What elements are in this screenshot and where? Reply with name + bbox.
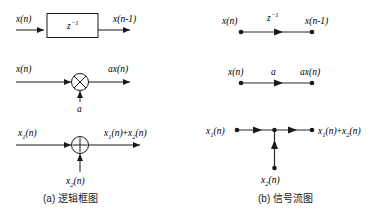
adder-input2-n: n bbox=[77, 176, 82, 186]
sfg-src2-n: n bbox=[272, 175, 277, 185]
multiplier-output-arrowhead bbox=[123, 79, 130, 85]
sfg-gain-branch-arrowhead bbox=[274, 80, 283, 87]
sfg-sink-x2-arg: (n) bbox=[349, 126, 360, 137]
sfg-sink-n1: n bbox=[329, 126, 334, 136]
panel-a-multiplier-row: a x(n) ax(n) bbox=[15, 64, 130, 114]
panel-a-delay-row: z−1 x(n) x(n-1) bbox=[15, 14, 136, 38]
sfg-gain-sink-node bbox=[310, 81, 315, 86]
sfg-delay-branch-arrowhead bbox=[274, 29, 283, 36]
panel-a-adder-row: x1(n) x1(n)+x2(n) x2(n) bbox=[16, 128, 147, 188]
adder-output-arrowhead bbox=[133, 142, 140, 148]
sfg-src2-arg: (n) bbox=[269, 175, 280, 186]
adder-input2-arg: (n) bbox=[74, 176, 85, 187]
delay-symbol-exponent: −1 bbox=[71, 19, 79, 26]
multiplier-input-label: x(n) bbox=[15, 64, 31, 75]
sfg-adder-source1-node bbox=[235, 128, 240, 133]
sfg-delay-gain-exponent: −1 bbox=[271, 11, 279, 18]
sfg-adder-source1-label: x1(n) bbox=[205, 126, 225, 138]
adder-input1-n: n bbox=[29, 128, 34, 138]
sfg-src1-arg: (n) bbox=[214, 126, 225, 137]
figure-container: z−1 x(n) x(n-1) a x(n) ax(n) bbox=[0, 0, 376, 210]
caption-b: (b) 信号流图 bbox=[258, 192, 313, 204]
sfg-adder-summing-node bbox=[272, 128, 277, 133]
sfg-gain-source-node bbox=[239, 81, 244, 86]
adder-input2-label: x2(n) bbox=[65, 176, 85, 188]
sfg-adder-arrowhead-up bbox=[271, 140, 278, 149]
adder-output-x2-arg: (n) bbox=[135, 128, 146, 139]
adder-input1-arg: (n) bbox=[26, 128, 37, 139]
sfg-adder-arrowhead-left bbox=[253, 127, 262, 134]
sfg-adder-sink-node bbox=[310, 128, 315, 133]
delay-input-label: x(n) bbox=[15, 14, 31, 25]
panel-b-delay-row: x(n) z−1 x(n-1) bbox=[221, 11, 328, 36]
sfg-sink-x1-arg: (n) bbox=[326, 126, 337, 137]
sfg-delay-gain-label: z−1 bbox=[266, 11, 278, 23]
multiplier-input-arrowhead bbox=[64, 79, 71, 85]
delay-input-arrowhead bbox=[37, 27, 44, 33]
delay-output-label: x(n-1) bbox=[112, 14, 136, 25]
sfg-sink-n2: n bbox=[353, 126, 358, 136]
delay-output-arrowhead bbox=[123, 27, 130, 33]
adder-output-n1: n bbox=[115, 128, 120, 138]
sfg-delay-sink-label: x(n-1) bbox=[304, 16, 328, 27]
sfg-gain-label: a bbox=[271, 67, 276, 77]
adder-output-n2: n bbox=[139, 128, 144, 138]
adder-output-x1-arg: (n) bbox=[112, 128, 123, 139]
adder-input1-label: x1(n) bbox=[17, 128, 37, 140]
multiplier-gain-arrowhead bbox=[77, 91, 83, 98]
sfg-delay-source-node bbox=[239, 30, 244, 35]
panel-b-multiplier-row: x(n) a ax(n) bbox=[227, 67, 320, 87]
caption-a: (a) 逻辑框图 bbox=[43, 192, 98, 204]
adder-input1-arrowhead bbox=[64, 142, 71, 148]
sfg-adder-source2-node bbox=[272, 166, 277, 171]
sfg-gain-sink-label: ax(n) bbox=[300, 67, 320, 78]
adder-output-label: x1(n)+x2(n) bbox=[103, 128, 147, 140]
sfg-src1-n: n bbox=[217, 126, 222, 136]
multiplier-output-label: ax(n) bbox=[108, 64, 128, 75]
sfg-adder-source2-label: x2(n) bbox=[260, 175, 280, 187]
sfg-adder-arrowhead-right bbox=[288, 127, 297, 134]
sfg-delay-source-label: x(n) bbox=[221, 16, 237, 27]
adder-input2-arrowhead bbox=[77, 154, 83, 161]
signal-processing-figure: z−1 x(n) x(n-1) a x(n) ax(n) bbox=[0, 0, 376, 210]
panel-b-adder-row: x1(n) x1(n)+x2(n) x2(n) bbox=[205, 126, 361, 187]
sfg-gain-source-label: x(n) bbox=[227, 67, 243, 78]
sfg-delay-sink-node bbox=[310, 30, 315, 35]
multiplier-gain-label: a bbox=[77, 104, 82, 114]
sfg-adder-sink-label: x1(n)+x2(n) bbox=[317, 126, 361, 138]
